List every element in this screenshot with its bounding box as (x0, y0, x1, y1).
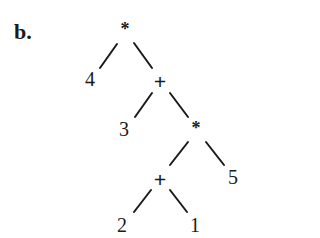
tree-node-root-multiply: * (121, 20, 130, 38)
edge-star-to-plus (170, 142, 188, 165)
tree-node-operand-3: 3 (119, 119, 129, 139)
edge-plus-to-1 (170, 190, 187, 212)
tree-node-operand-4: 4 (85, 69, 95, 89)
edge-root-to-plus (134, 43, 152, 68)
edge-plus-to-3 (135, 93, 152, 117)
tree-node-operand-2: 2 (117, 215, 127, 235)
edge-plus-to-2 (134, 190, 151, 212)
tree-node-multiply: * (192, 119, 201, 137)
edge-plus-to-star (170, 93, 188, 117)
tree-node-operand-5: 5 (228, 167, 238, 187)
tree-node-add-inner: + (154, 169, 167, 191)
edge-root-to-4 (100, 44, 117, 68)
edge-star-to-5 (206, 142, 224, 165)
tree-node-operand-1: 1 (190, 215, 200, 235)
tree-node-add: + (154, 71, 167, 93)
